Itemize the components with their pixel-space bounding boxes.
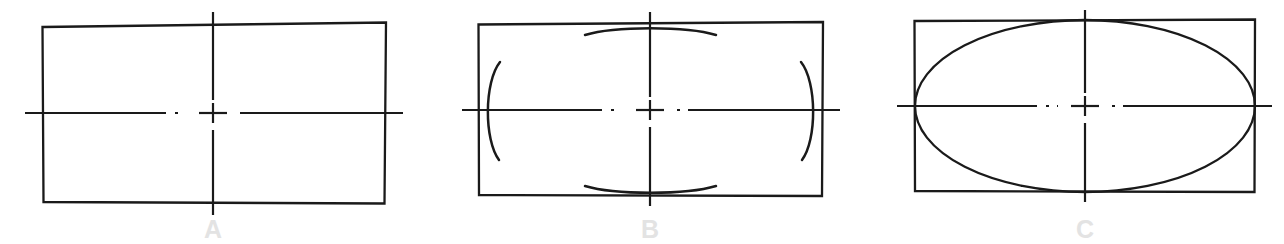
figures-canvas: A B (0, 0, 1284, 244)
figure-b-label: B (641, 215, 659, 243)
figure-a-label: A (204, 215, 222, 243)
figure-c-label: C (1076, 215, 1094, 243)
figure-sheet: A B (0, 0, 1284, 244)
figure-c: C (897, 10, 1272, 243)
figure-a: A (25, 12, 403, 243)
figure-b: B (462, 12, 840, 243)
